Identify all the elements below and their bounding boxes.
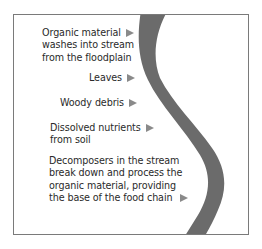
- arrow-right-icon: [146, 124, 154, 132]
- label-line: Woody debris: [60, 97, 124, 108]
- label-line: Dissolved nutrients: [50, 122, 141, 133]
- label-line: washes into stream: [42, 39, 134, 51]
- label-line: from the floodplain: [42, 52, 134, 64]
- label-line: Decomposers in the stream: [49, 155, 188, 167]
- label-line: Organic material: [42, 27, 121, 38]
- label-line: organic material, providing: [49, 180, 188, 192]
- label-line: Leaves: [89, 72, 122, 83]
- label-decomposers: Decomposers in the stream break down and…: [49, 155, 188, 204]
- label-line: the base of the food chain: [49, 192, 172, 203]
- label-leaves: Leaves: [89, 72, 135, 84]
- arrow-right-icon: [180, 194, 188, 202]
- label-dissolved-nutrients: Dissolved nutrients from soil: [50, 122, 154, 147]
- arrow-right-icon: [129, 99, 137, 107]
- arrow-right-icon: [127, 74, 135, 82]
- label-woody-debris: Woody debris: [60, 97, 137, 109]
- arrow-right-icon: [126, 29, 134, 37]
- label-organic-material: Organic material washes into stream from…: [42, 27, 134, 64]
- label-line: from soil: [50, 134, 154, 146]
- label-line: break down and process the: [49, 167, 188, 179]
